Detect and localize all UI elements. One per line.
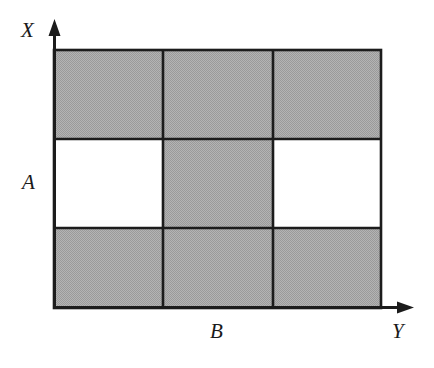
grid-cells-layer bbox=[54, 50, 381, 308]
column-marker-label-b: B bbox=[210, 321, 223, 342]
grid-cell-r2c2 bbox=[163, 139, 273, 228]
row-marker-label-a: A bbox=[22, 172, 35, 193]
grid-cell-r2c3 bbox=[273, 139, 381, 228]
grid-cell-r3c1 bbox=[54, 228, 163, 308]
y-axis-arrowhead bbox=[397, 302, 414, 314]
grid-cell-r1c2 bbox=[163, 50, 273, 139]
grid-cell-r3c2 bbox=[163, 228, 273, 308]
x-axis-label: X bbox=[21, 20, 34, 41]
grid-cell-r1c3 bbox=[273, 50, 381, 139]
grid-cell-r1c1 bbox=[54, 50, 163, 139]
grid-diagram-svg bbox=[0, 0, 434, 368]
x-axis-arrowhead bbox=[49, 19, 61, 36]
grid-cell-r3c3 bbox=[273, 228, 381, 308]
figure-canvas: X A B Y bbox=[0, 0, 434, 368]
y-axis-label: Y bbox=[392, 321, 404, 342]
grid-cell-r2c1 bbox=[54, 139, 163, 228]
